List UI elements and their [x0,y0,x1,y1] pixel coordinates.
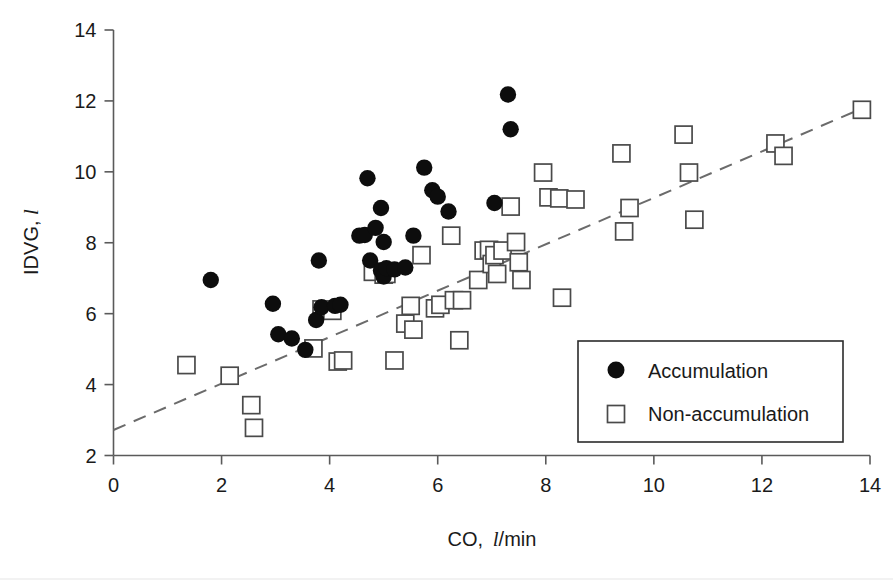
legend-marker-non-accumulation [608,406,625,423]
data-point-non-accumulation [508,234,525,251]
legend-marker-accumulation [608,362,625,379]
x-axis-title: CO, l/min [448,527,537,551]
data-point-accumulation [373,200,389,216]
data-point-non-accumulation [470,271,487,288]
y-tick-label-10: 10 [74,161,96,183]
data-point-accumulation [500,86,516,102]
data-point-non-accumulation [680,164,697,181]
data-point-accumulation [265,296,281,312]
data-point-accumulation [284,330,300,346]
x-tick-label-6: 6 [432,474,443,496]
data-point-non-accumulation [613,145,630,162]
data-point-non-accumulation [675,126,692,143]
data-point-non-accumulation [489,265,506,282]
y-axis-title: IDVG, l [19,209,43,275]
y-tick-label-12: 12 [74,90,96,112]
data-point-accumulation [375,234,391,250]
series-accumulation-points [203,86,519,358]
data-point-accumulation [297,342,313,358]
figure-canvas: 2468101214 02468101214 CO, l/min IDVG, l… [0,0,893,585]
data-point-non-accumulation [243,397,260,414]
data-point-non-accumulation [686,211,703,228]
y-tick-label-2: 2 [85,445,96,467]
data-point-non-accumulation [621,200,638,217]
legend-label-non-accumulation: Non-accumulation [648,403,809,425]
data-point-non-accumulation [221,367,238,384]
data-point-non-accumulation [567,191,584,208]
data-point-accumulation [430,188,446,204]
data-point-accumulation [203,272,219,288]
x-tick-label-14: 14 [859,474,881,496]
y-tick-label-6: 6 [85,303,96,325]
data-point-non-accumulation [443,227,460,244]
data-point-non-accumulation [775,147,792,164]
data-point-accumulation [502,121,518,137]
axis-titles: CO, l/min IDVG, l [19,209,536,551]
data-point-accumulation [367,220,383,236]
data-point-non-accumulation [386,352,403,369]
data-point-non-accumulation [510,254,527,271]
data-point-non-accumulation [405,321,422,338]
y-tick-label-8: 8 [85,232,96,254]
x-tick-label-2: 2 [216,474,227,496]
x-tick-label-12: 12 [751,474,773,496]
data-point-non-accumulation [551,190,568,207]
scan-artifact-line [0,578,893,580]
data-point-non-accumulation [245,419,262,436]
data-point-non-accumulation [178,357,195,374]
data-point-non-accumulation [402,297,419,314]
scatter-plot: 2468101214 02468101214 CO, l/min IDVG, l… [0,0,893,585]
data-point-accumulation [486,195,502,211]
x-axis-ticks [114,456,871,465]
y-tick-label-4: 4 [85,374,96,396]
data-point-accumulation [405,227,421,243]
data-point-accumulation [416,159,432,175]
data-point-non-accumulation [413,247,430,264]
legend[interactable]: Accumulation Non-accumulation [578,341,843,442]
data-point-accumulation [311,252,327,268]
data-point-accumulation [397,259,413,275]
data-point-non-accumulation [335,352,352,369]
data-point-non-accumulation [451,332,468,349]
x-tick-label-0: 0 [108,474,119,496]
data-point-non-accumulation [454,292,471,309]
data-point-non-accumulation [553,289,570,306]
data-point-accumulation [440,203,456,219]
data-point-accumulation [332,297,348,313]
data-point-non-accumulation [853,101,870,118]
x-tick-label-8: 8 [540,474,551,496]
data-point-non-accumulation [502,198,519,215]
x-axis-tick-labels: 02468101214 [108,474,881,496]
legend-label-accumulation: Accumulation [648,360,768,382]
data-point-non-accumulation [616,223,633,240]
x-tick-label-4: 4 [324,474,335,496]
y-tick-label-14: 14 [74,19,96,41]
data-point-accumulation [359,170,375,186]
legend-border [578,341,843,442]
x-tick-label-10: 10 [643,474,665,496]
data-point-non-accumulation [513,271,530,288]
data-point-non-accumulation [535,164,552,181]
y-axis-tick-labels: 2468101214 [74,19,96,467]
y-axis-ticks [105,30,114,456]
